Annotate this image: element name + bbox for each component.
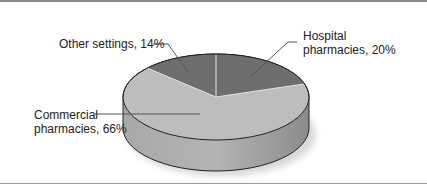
bottom-rule — [0, 183, 427, 184]
label-other: Other settings, 14% — [59, 37, 164, 51]
label-hospital: Hospital pharmacies, 20% — [303, 29, 396, 57]
label-commercial: Commercial pharmacies, 66% — [34, 108, 127, 136]
